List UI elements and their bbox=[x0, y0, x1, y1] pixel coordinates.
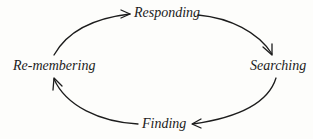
arrow-finding-to-remembering bbox=[53, 78, 138, 124]
node-remembering: Re-membering bbox=[13, 59, 95, 73]
arrow-responding-to-searching bbox=[198, 15, 272, 55]
arrow-remembering-to-responding bbox=[54, 10, 130, 55]
node-responding: Responding bbox=[134, 6, 200, 20]
node-finding: Finding bbox=[142, 117, 186, 131]
arrow-searching-to-finding bbox=[192, 78, 276, 128]
node-searching: Searching bbox=[250, 59, 306, 73]
cycle-diagram: Responding Searching Finding Re-memberin… bbox=[0, 0, 313, 139]
